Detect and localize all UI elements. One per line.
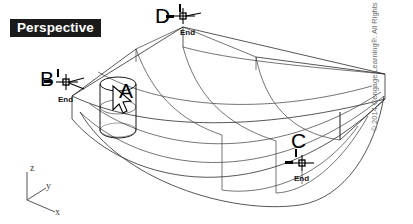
ucs-axis-icon [27, 172, 55, 212]
point-label-c: C [291, 130, 306, 151]
perspective-mode-label: Perspective [10, 19, 101, 37]
copyright-notice: © 2014 Cengage Learning®. All Rights Res… [370, 2, 379, 132]
point-label-b: B [40, 68, 54, 89]
point-label-a: A [119, 80, 133, 101]
ucs-axis-label-x: x [55, 207, 60, 217]
autocad-viewport[interactable]: Perspective B A D C End End End z y x © … [0, 0, 413, 224]
ucs-axis-label-z: z [30, 163, 34, 173]
osnap-marker-d [166, 4, 201, 24]
ucs-axis-label-y: y [46, 181, 51, 191]
osnap-tooltip-b: End [58, 95, 73, 104]
osnap-tooltip-c: End [294, 174, 309, 183]
osnap-tooltip-d: End [180, 28, 195, 37]
surface-mesh[interactable] [72, 27, 385, 207]
point-label-d: D [155, 5, 170, 26]
